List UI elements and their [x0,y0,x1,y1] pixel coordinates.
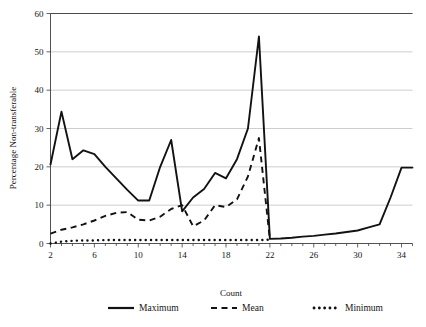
y-tick-label: 0 [39,239,44,249]
x-tick-label: 10 [134,250,144,260]
chart-container: 2610141822263034 0102030405060 Count Per… [0,0,426,327]
x-tick-label: 26 [309,250,319,260]
series-line-mean [51,138,270,240]
y-axis-title: Percentage Non-transferable [8,87,18,190]
chart-legend: MaximumMeanMinimum [108,303,384,313]
y-tick-label: 50 [35,47,45,57]
y-tick-label: 30 [35,124,45,134]
y-axis-tick-labels: 0102030405060 [35,9,45,249]
legend-label-mean: Mean [242,303,264,313]
y-tick-label: 40 [35,85,45,95]
x-tick-label: 2 [48,250,53,260]
x-tick-label: 34 [397,250,407,260]
y-tick-label: 10 [35,200,45,210]
x-tick-label: 14 [178,250,188,260]
y-axis-ticks [47,14,51,244]
x-tick-label: 30 [353,250,363,260]
y-tick-label: 20 [35,162,45,172]
x-axis-ticks [51,244,413,248]
x-tick-label: 22 [265,250,274,260]
x-tick-label: 6 [92,250,97,260]
series-line-maximum [51,37,413,239]
data-series [51,37,413,244]
legend-label-minimum: Minimum [345,303,384,313]
x-axis-tick-labels: 2610141822263034 [48,250,406,260]
line-chart: 2610141822263034 0102030405060 Count Per… [0,0,426,327]
legend-label-maximum: Maximum [139,303,179,313]
series-line-minimum [51,240,270,244]
x-tick-label: 18 [222,250,232,260]
gridlines [51,14,413,206]
y-tick-label: 60 [35,9,45,19]
x-axis-title: Count [220,288,243,298]
